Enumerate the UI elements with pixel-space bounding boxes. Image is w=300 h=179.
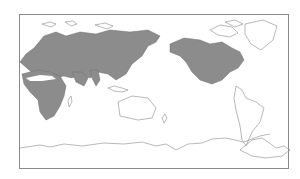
range-shading <box>20 30 244 120</box>
world-map <box>0 0 300 179</box>
